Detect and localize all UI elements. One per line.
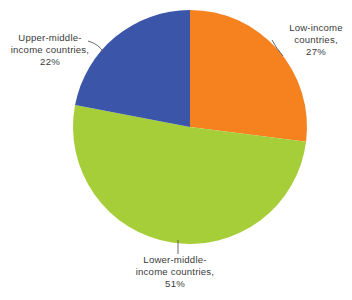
pie-label-upper-middle-income: Upper-middle- income countries, 22%	[2, 32, 98, 69]
pie-chart-figure: Upper-middle- income countries, 22% Low-…	[0, 0, 352, 300]
pie-slices	[73, 10, 307, 244]
pie-label-low-income: Low-income countries, 27%	[281, 22, 351, 59]
pie-label-lower-middle-income: Lower-middle- income countries, 51%	[108, 254, 242, 291]
